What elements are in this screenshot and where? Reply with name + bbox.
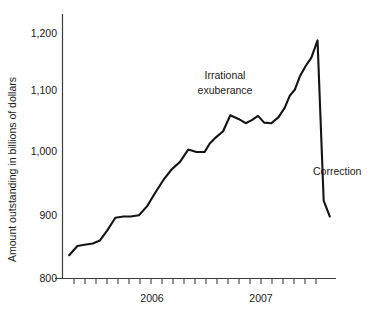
y-tick-group: 1,200 1,100 1,000 900 800 xyxy=(31,27,57,284)
y-tick-label-900: 900 xyxy=(39,209,57,221)
y-tick-label-1100: 1,100 xyxy=(31,84,57,96)
line-chart: Amount outstanding in billions of dollar… xyxy=(0,0,368,318)
y-tick-label-1000: 1,000 xyxy=(31,145,57,157)
y-axis-title: Amount outstanding in billions of dollar… xyxy=(6,77,18,262)
annotation-line-2: exuberance xyxy=(198,84,253,96)
chart-container: Amount outstanding in billions of dollar… xyxy=(0,0,368,318)
x-tick-label-2006: 2006 xyxy=(140,292,164,304)
data-series-line xyxy=(69,40,330,255)
annotation-line-1: Irrational xyxy=(205,69,246,81)
y-tick-label-800: 800 xyxy=(39,272,57,284)
x-tick-label-2007: 2007 xyxy=(249,292,273,304)
y-tick-label-1200: 1,200 xyxy=(31,27,57,39)
annotation-irrational-exuberance: Irrational exuberance xyxy=(198,69,253,96)
annotation-line-1: Correction xyxy=(313,165,362,177)
x-tick-marks xyxy=(74,279,316,285)
annotation-correction: Correction xyxy=(313,165,362,177)
